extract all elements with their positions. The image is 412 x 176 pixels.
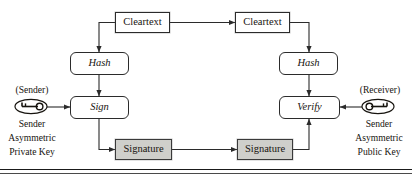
node-verify-label: Verify xyxy=(297,102,322,113)
label-receiver-key-line3: Public Key xyxy=(346,146,412,157)
wire-cleartext-left-to-hash-left xyxy=(99,23,115,53)
node-sign[interactable]: Sign xyxy=(70,96,129,119)
label-receiver-key-line1: Sender xyxy=(346,118,412,129)
label-sender-key-line1: Sender xyxy=(0,118,64,129)
wire-cleartext-right-to-hash-right xyxy=(290,23,309,53)
node-cleartext-left[interactable]: Cleartext xyxy=(115,12,170,33)
label-sender-role: (Sender) xyxy=(0,84,64,95)
label-sender-key-line2: Asymmetric xyxy=(0,132,64,143)
node-sign-label: Sign xyxy=(90,102,109,113)
node-hash-left-label: Hash xyxy=(88,58,110,69)
node-hash-left[interactable]: Hash xyxy=(70,52,129,75)
wire-signature-right-to-verify xyxy=(293,119,309,150)
node-cleartext-right-label: Cleartext xyxy=(243,17,281,28)
node-signature-left[interactable]: Signature xyxy=(115,139,172,160)
node-signature-left-label: Signature xyxy=(123,144,163,155)
label-sender-key-line3: Private Key xyxy=(0,146,64,157)
node-verify[interactable]: Verify xyxy=(279,96,340,119)
node-cleartext-left-label: Cleartext xyxy=(123,17,161,28)
signature-flow-diagram: Cleartext Cleartext Hash Hash Sign Verif… xyxy=(0,0,412,176)
node-signature-right-label: Signature xyxy=(245,144,285,155)
wire-sign-to-signature-left xyxy=(99,119,115,150)
node-hash-right-label: Hash xyxy=(297,58,319,69)
sender-key-icon xyxy=(15,99,47,113)
node-signature-right[interactable]: Signature xyxy=(237,139,293,160)
label-receiver-key-line2: Asymmetric xyxy=(346,132,412,143)
bottom-rule-thin xyxy=(0,173,412,174)
receiver-key-icon xyxy=(362,99,394,113)
bottom-rule-thick xyxy=(0,169,412,170)
node-hash-right[interactable]: Hash xyxy=(279,52,338,75)
node-cleartext-right[interactable]: Cleartext xyxy=(235,12,290,33)
label-receiver-role: (Receiver) xyxy=(348,84,412,95)
